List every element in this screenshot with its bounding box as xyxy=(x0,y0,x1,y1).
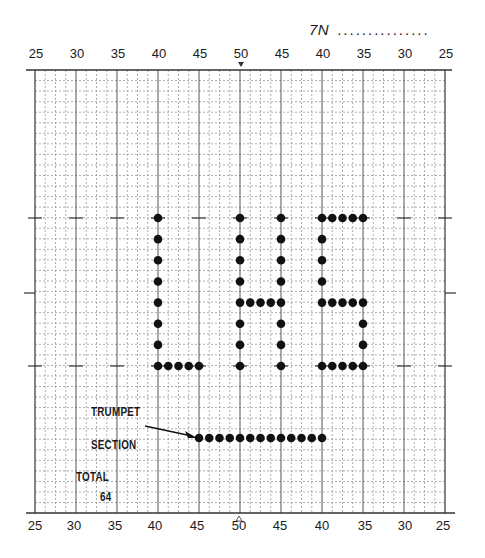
performer-dot xyxy=(359,362,368,371)
performer-dot xyxy=(359,298,368,307)
trumpet-dot xyxy=(277,434,286,443)
trumpet-arrow xyxy=(145,426,197,438)
performer-dot xyxy=(236,277,245,286)
performer-dot xyxy=(236,256,245,265)
performer-dot xyxy=(154,341,163,350)
center-marker-bottom-icon xyxy=(236,516,242,521)
performer-dot xyxy=(348,298,357,307)
performer-dot xyxy=(318,362,327,371)
performer-dot xyxy=(338,362,347,371)
performer-dot xyxy=(348,214,357,223)
performer-dot xyxy=(184,362,193,371)
performer-dot xyxy=(318,277,327,286)
performer-dot xyxy=(174,362,183,371)
performer-dot xyxy=(154,277,163,286)
performer-dot xyxy=(195,362,204,371)
trumpet-dot xyxy=(225,434,234,443)
arrow-head-icon xyxy=(185,431,197,438)
performer-dot xyxy=(154,214,163,223)
performer-dot xyxy=(318,256,327,265)
performer-dot xyxy=(277,298,286,307)
trumpet-label-line1: TRUMPET xyxy=(91,405,140,419)
trumpet-dot xyxy=(318,434,327,443)
performer-dot xyxy=(154,235,163,244)
performer-dot xyxy=(236,298,245,307)
performer-dot xyxy=(328,298,337,307)
trumpet-dot xyxy=(256,434,265,443)
performer-dot xyxy=(154,362,163,371)
trumpet-dot xyxy=(297,434,306,443)
performer-dot xyxy=(318,214,327,223)
performer-dot xyxy=(359,319,368,328)
performer-dot xyxy=(154,256,163,265)
trumpet-dot xyxy=(215,434,224,443)
field-grid xyxy=(0,0,485,558)
performer-dot xyxy=(236,319,245,328)
performer-dot xyxy=(359,341,368,350)
performer-dot xyxy=(277,214,286,223)
performer-dot xyxy=(236,235,245,244)
performer-dot xyxy=(318,235,327,244)
performer-dot xyxy=(277,319,286,328)
performer-dot xyxy=(338,214,347,223)
performer-dot xyxy=(266,298,275,307)
performer-dot xyxy=(246,298,255,307)
performer-dot xyxy=(318,298,327,307)
performer-dot xyxy=(236,362,245,371)
performer-dot xyxy=(277,362,286,371)
trumpet-label-line2: SECTION xyxy=(91,438,136,452)
total-label: TOTAL xyxy=(76,470,109,484)
trumpet-dot xyxy=(266,434,275,443)
performer-dot xyxy=(154,319,163,328)
performer-dot xyxy=(328,362,337,371)
performer-dot xyxy=(236,341,245,350)
performer-dot xyxy=(328,214,337,223)
center-marker-top-icon xyxy=(238,62,244,67)
trumpet-dot xyxy=(287,434,296,443)
performer-dot xyxy=(277,235,286,244)
trumpet-dot xyxy=(236,434,245,443)
trumpet-dot xyxy=(246,434,255,443)
trumpet-dot xyxy=(307,434,316,443)
performer-dot xyxy=(256,298,265,307)
performer-dot xyxy=(164,362,173,371)
performer-dot xyxy=(154,298,163,307)
performer-dot xyxy=(348,362,357,371)
performer-dot xyxy=(277,277,286,286)
performer-dot xyxy=(277,256,286,265)
trumpet-dot xyxy=(205,434,214,443)
performer-dot xyxy=(236,214,245,223)
performer-dot xyxy=(359,214,368,223)
performer-dot xyxy=(338,298,347,307)
performer-dot xyxy=(277,341,286,350)
total-value: 64 xyxy=(100,490,111,504)
